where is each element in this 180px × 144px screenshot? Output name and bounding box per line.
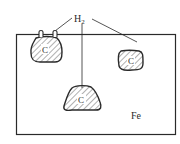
inclusion-label-bottom: C bbox=[78, 95, 84, 105]
iron-carbon-hydrogen-diagram: C C C H2 Fe bbox=[0, 0, 180, 144]
hydrogen-subscript: 2 bbox=[81, 18, 85, 26]
carbon-inclusion-bottom: C bbox=[64, 86, 101, 111]
carbon-inclusion-left: C bbox=[31, 31, 62, 63]
hydrogen-symbol: H bbox=[74, 13, 81, 24]
inclusion-label-right: C bbox=[128, 56, 134, 66]
hydrogen-label: H2 bbox=[74, 13, 85, 26]
inclusion-label-left: C bbox=[42, 45, 48, 55]
leader-line-right bbox=[92, 19, 137, 42]
hydrogen-bubble-2 bbox=[53, 31, 57, 38]
hydrogen-bubble-1 bbox=[39, 31, 43, 38]
leader-line-left bbox=[55, 18, 72, 31]
iron-label: Fe bbox=[131, 110, 142, 121]
carbon-inclusion-right: C bbox=[118, 50, 143, 70]
